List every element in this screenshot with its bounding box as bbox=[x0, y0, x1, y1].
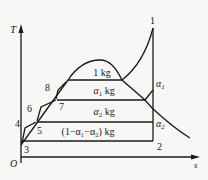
point-4-label: 4 bbox=[15, 118, 20, 129]
ts-diagram: T s O 1 2 3 4 5 6 7 8 α1 α2 bbox=[0, 0, 208, 180]
s-axis-arrow-icon bbox=[191, 155, 200, 160]
point-2-label: 2 bbox=[157, 141, 162, 152]
point-8-label: 8 bbox=[45, 82, 50, 93]
superheat-curve bbox=[122, 28, 153, 80]
origin-label: O bbox=[10, 158, 17, 169]
point-1-label: 1 bbox=[150, 15, 155, 26]
point-5-label: 5 bbox=[37, 125, 42, 136]
point-6-label: 6 bbox=[27, 103, 32, 114]
t-axis-arrow-icon bbox=[19, 24, 24, 33]
t-axis-label: T bbox=[10, 23, 17, 35]
point-7-label: 7 bbox=[59, 101, 64, 112]
region-1kg-label: 1 kg bbox=[93, 67, 111, 78]
point-3-label: 3 bbox=[24, 144, 29, 155]
region-alpha2-label: α2 kg bbox=[93, 106, 114, 119]
s-axis-label: s bbox=[194, 160, 198, 170]
extraction-a1 bbox=[145, 90, 153, 100]
point-a2-label: α2 bbox=[156, 118, 165, 131]
region-remainder-label: (1−α₁−α₂) kg bbox=[62, 126, 115, 138]
ts-diagram-svg: T s O 1 2 3 4 5 6 7 8 α1 α2 bbox=[0, 0, 208, 180]
region-alpha1-label: α1 kg bbox=[93, 85, 114, 98]
axes: T s O bbox=[10, 23, 200, 170]
point-a1-label: α1 bbox=[156, 78, 165, 91]
